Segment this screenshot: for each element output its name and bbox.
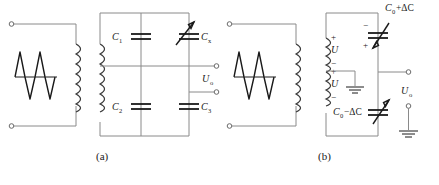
terminal-output-top-a[interactable] [214, 64, 219, 69]
label-c2: C [112, 101, 119, 112]
label-c1-sub: 1 [119, 37, 122, 44]
secondary-coil-a [100, 44, 105, 112]
wire-top-a [14, 24, 76, 44]
ac-source-waveform-b [234, 52, 276, 99]
inductor-symbol-b [296, 44, 301, 112]
ground-symbol-center-tap [346, 87, 364, 93]
label-cbot-delta: −ΔC [344, 107, 362, 117]
inductor-symbol-secondary-a [100, 44, 105, 112]
label-uo-a: U [202, 73, 210, 84]
circuit-figure: .wire { stroke: #8a8a8a; stroke-width: 1… [0, 0, 439, 185]
sine-wave-b [234, 52, 274, 99]
label-c2-sub: 2 [119, 107, 122, 114]
circuit-svg: .wire { stroke: #8a8a8a; stroke-width: 1… [0, 0, 439, 185]
label-uo-b: U [401, 85, 409, 96]
terminal-output-top-b[interactable] [406, 70, 411, 75]
label-cx: C [201, 31, 208, 42]
label-cx-sub: x [208, 37, 212, 44]
polarity-plus-ctop: + [363, 40, 368, 50]
winding-upper-b [326, 38, 331, 72]
polarity-minus-ctop: − [363, 20, 368, 30]
terminal-input-top-a[interactable] [9, 22, 14, 27]
label-u-winding-upper: U [331, 44, 339, 55]
panel-b: + U − + U − − + C [227, 2, 418, 137]
label-cbot: C [333, 106, 340, 117]
polarity-plus-winding-upper: + [331, 32, 336, 42]
terminal-output-bottom-a[interactable] [214, 90, 219, 95]
ac-source-waveform-a [15, 52, 57, 99]
label-u-winding-lower: U [331, 78, 339, 89]
sine-wave-a [15, 52, 55, 99]
label-ctop-sub: 0 [392, 8, 395, 15]
wire-bottom-a [14, 106, 76, 126]
panel-a: C 1 C 2 C x C 3 [9, 13, 219, 136]
terminal-output-bottom-b[interactable] [406, 104, 411, 109]
label-c3-sub: 3 [208, 107, 211, 114]
terminal-input-top-b[interactable] [227, 22, 232, 27]
capacitor-cx [176, 22, 199, 45]
label-ctop-delta: +ΔC [396, 3, 414, 13]
ground-symbol-output [399, 131, 418, 137]
primary-coil-a [76, 44, 81, 112]
label-c1: C [112, 31, 119, 42]
terminal-input-bottom-b[interactable] [227, 124, 232, 129]
wire-top-b [232, 24, 296, 44]
label-uo-b-sub: o [409, 91, 412, 98]
winding-lower-b [326, 72, 331, 106]
terminal-input-bottom-a[interactable] [9, 124, 14, 129]
label-ctop: C [385, 2, 392, 13]
inductor-symbol-a [76, 44, 81, 112]
label-c3: C [201, 101, 208, 112]
panel-caption-a: (a) [96, 150, 108, 162]
label-uo-a-sub: o [210, 79, 213, 86]
wire-bottom-b [232, 106, 296, 126]
label-cbot-sub: 0 [340, 112, 343, 119]
panel-caption-b: (b) [318, 150, 331, 162]
polarity-minus-winding-lower: − [331, 92, 336, 102]
